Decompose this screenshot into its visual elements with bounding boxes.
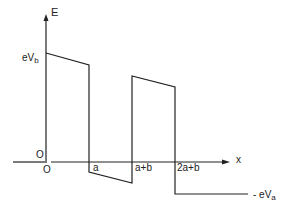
eVb-text: eV	[22, 52, 34, 63]
e-axis-label: E	[51, 7, 58, 18]
eVb-label: eVb	[22, 53, 39, 65]
potential-diagram	[0, 0, 285, 215]
x-tick-a-plus-b: a+b	[135, 163, 152, 173]
x-tick-2a-plus-b: 2a+b	[177, 163, 200, 173]
x-tick-a: a	[93, 163, 99, 173]
origin-label-x: O	[43, 165, 51, 175]
eVa-label: - eVa	[253, 190, 276, 202]
e-axis-arrow-icon	[44, 14, 49, 21]
eVb-sub: b	[34, 56, 38, 65]
origin-label-y: O	[36, 150, 44, 160]
eVa-text: - eV	[253, 189, 271, 200]
x-axis-label: x	[236, 155, 241, 165]
x-axis-arrow-icon	[222, 160, 230, 165]
eVa-sub: a	[271, 193, 275, 202]
